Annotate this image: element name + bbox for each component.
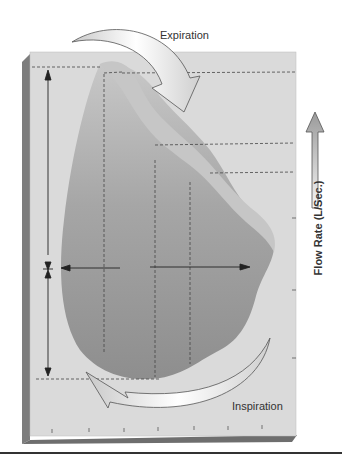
flow-volume-diagram: Expiration Inspiration Flow Rate (L/Sec.… xyxy=(0,0,342,459)
inspiration-label: Inspiration xyxy=(232,400,283,412)
expiration-label: Expiration xyxy=(160,29,209,41)
bottom-divider xyxy=(0,452,342,454)
flow-rate-axis-label: Flow Rate (L/Sec.) xyxy=(312,168,324,288)
